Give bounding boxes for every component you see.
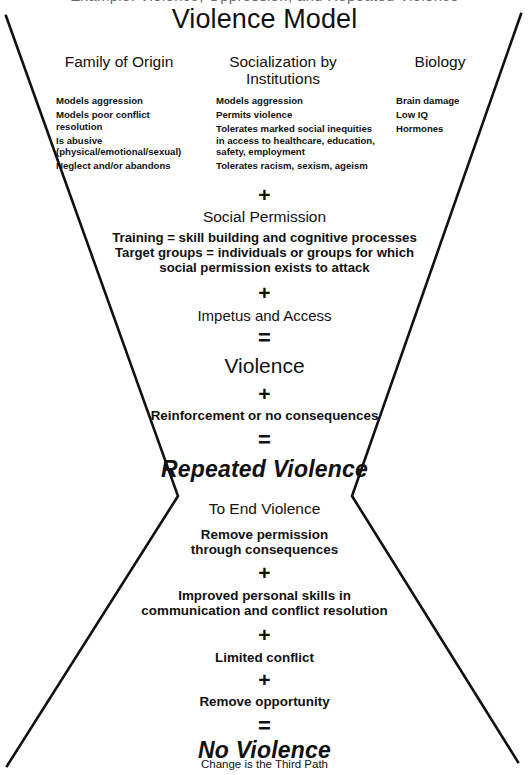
social-permission-heading: Social Permission [0, 208, 529, 226]
list-item: Models aggression [216, 95, 401, 107]
repeated-violence-label: Repeated Violence [0, 457, 529, 482]
list-item: Hormones [396, 123, 506, 135]
column-heading-family-of-origin: Family of Origin [44, 53, 194, 70]
social-permission-line-2: Target groups = individuals or groups fo… [0, 246, 529, 261]
social-permission-line-1: Training = skill building and cognitive … [0, 231, 529, 246]
column-heading-biology: Biology [380, 53, 500, 70]
violence-model-diagram: Example: Violence, Oppression, and Repea… [0, 0, 529, 775]
operator-equals-3: = [0, 716, 529, 736]
list-item: Tolerates racism, sexism, ageism [216, 160, 401, 172]
improved-skills-line-2: communication and conflict resolution [0, 603, 529, 618]
list-item: Is abusive(physical/emotional/sexual) [56, 135, 206, 158]
list-item: Low IQ [396, 109, 506, 121]
remove-permission-line-1: Remove permission [0, 527, 529, 542]
operator-plus-2: + [0, 283, 529, 303]
operator-plus-4: + [0, 563, 529, 583]
diagram-content: Example: Violence, Oppression, and Repea… [0, 0, 529, 775]
column-heading-socialization-by-institutions: Socialization byInstitutions [198, 53, 368, 87]
list-item: Neglect and/or abandons [56, 160, 206, 172]
list-item: Tolerates marked social inequitiesin acc… [216, 123, 401, 158]
list-item: Brain damage [396, 95, 506, 107]
column-items-biology: Brain damage Low IQ Hormones [396, 95, 506, 137]
list-item: Permits violence [216, 109, 401, 121]
operator-plus-3: + [0, 384, 529, 404]
bottom-caption: Change is the Third Path [0, 758, 529, 771]
operator-equals-1: = [0, 328, 529, 348]
list-item: Models aggression [56, 95, 206, 107]
improved-skills-line-1: Improved personal skills in [0, 588, 529, 603]
to-end-violence-heading: To End Violence [0, 500, 529, 518]
column-items-socialization-by-institutions: Models aggression Permits violence Toler… [216, 95, 401, 175]
column-items-family-of-origin: Models aggression Models poor conflictre… [56, 95, 206, 175]
operator-plus-6: + [0, 670, 529, 690]
remove-opportunity-label: Remove opportunity [0, 694, 529, 709]
operator-plus-1: + [0, 185, 529, 205]
operator-plus-5: + [0, 625, 529, 645]
limited-conflict-label: Limited conflict [0, 650, 529, 665]
operator-equals-2: = [0, 430, 529, 450]
social-permission-line-3: social permission exists to attack [0, 261, 529, 276]
remove-permission-line-2: through consequences [0, 542, 529, 557]
list-item: Models poor conflictresolution [56, 109, 206, 132]
violence-label: Violence [0, 354, 529, 377]
page-title: Violence Model [0, 4, 529, 34]
reinforcement-label: Reinforcement or no consequences [0, 408, 529, 423]
impetus-and-access-label: Impetus and Access [0, 308, 529, 323]
